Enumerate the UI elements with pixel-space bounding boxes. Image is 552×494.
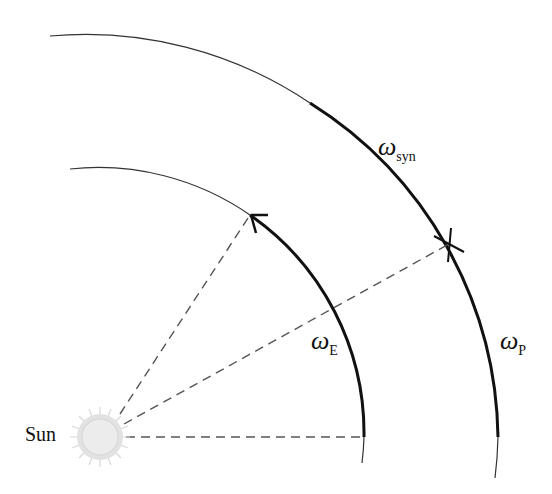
outer-orbit-thin <box>50 34 310 103</box>
omega-p-label: ωP <box>500 326 526 359</box>
omega-syn-label: ωsyn <box>378 132 416 165</box>
outer-orbit-tail <box>495 437 498 478</box>
sun-label: Sun <box>25 423 56 446</box>
omega-e-subscript: E <box>329 343 338 358</box>
omega-p-symbol: ω <box>500 326 518 355</box>
omega-p-subscript: P <box>518 343 526 358</box>
omega-e-symbol: ω <box>311 326 329 355</box>
radius-line-to-earth <box>120 215 250 414</box>
inner-orbit-thick <box>250 215 364 437</box>
orbit-diagram: Sun ωsyn ωE ωP <box>0 0 552 494</box>
omega-e-label: ωE <box>311 326 338 359</box>
omega-syn-subscript: syn <box>396 149 415 164</box>
inner-orbit-thin <box>70 167 250 215</box>
diagram-canvas <box>0 0 552 494</box>
omega-syn-symbol: ω <box>378 132 396 161</box>
inner-orbit-tail <box>362 437 364 463</box>
sun-icon <box>70 407 130 467</box>
